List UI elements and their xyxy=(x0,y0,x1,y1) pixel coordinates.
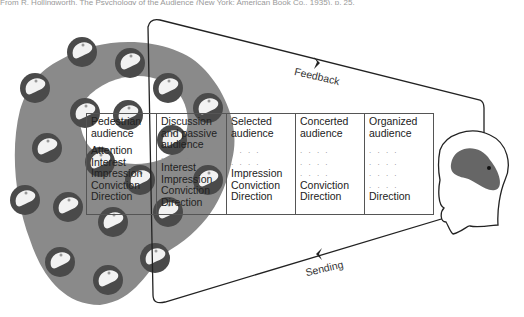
head-icon xyxy=(67,37,97,67)
head-icon xyxy=(20,73,50,103)
column-header: Pedestrian audience xyxy=(91,116,152,139)
speaker-head-icon xyxy=(439,131,509,234)
stage-item-empty: . . . . xyxy=(369,157,429,169)
head-icon xyxy=(53,192,83,222)
head-icon xyxy=(93,265,123,295)
column-selected: Selected audience . . . . . . . . Impres… xyxy=(227,114,296,214)
column-header: Discussion and passive audience xyxy=(161,116,222,151)
audience-communication-diagram: From R. Hollingworth, The Psychology of … xyxy=(0,0,524,317)
column-concerted: Concerted audience . . . . . . . . . . .… xyxy=(296,114,365,214)
column-header: Concerted audience xyxy=(300,116,360,139)
stage-item-empty: . . . . xyxy=(231,145,291,157)
stage-item: Interest xyxy=(161,162,222,174)
stage-item: Direction xyxy=(300,191,360,203)
head-icon xyxy=(10,185,40,215)
stage-item: Direction xyxy=(91,191,152,203)
stage-item-empty: . . . . xyxy=(300,157,360,169)
column-discussion-passive: Discussion and passive audience . . . . … xyxy=(157,114,227,214)
column-header: Organized audience xyxy=(369,116,429,139)
head-icon xyxy=(140,243,170,273)
stage-item: Attention xyxy=(91,145,152,157)
stage-item-empty: . . . . xyxy=(300,168,360,180)
column-organized: Organized audience . . . . . . . . . . .… xyxy=(365,114,433,214)
stage-item: Impression xyxy=(231,168,291,180)
stage-item: Conviction xyxy=(161,185,222,197)
stage-item-empty: . . . . xyxy=(369,168,429,180)
head-icon xyxy=(32,133,62,163)
sending-arrow-icon xyxy=(316,248,322,260)
stage-item-empty: . . . . xyxy=(369,145,429,157)
stage-item: Direction xyxy=(161,197,222,209)
stage-item: Direction xyxy=(369,191,429,203)
column-header: Selected audience xyxy=(231,116,291,139)
head-icon xyxy=(153,73,183,103)
column-pedestrian: Pedestrian audience Attention Interest I… xyxy=(87,114,157,214)
audience-types-table: Pedestrian audience Attention Interest I… xyxy=(86,113,434,215)
stage-item-empty: . . . . xyxy=(300,145,360,157)
stage-item: Direction xyxy=(231,191,291,203)
head-icon xyxy=(115,48,145,78)
head-icon xyxy=(45,247,75,277)
stage-item: Impression xyxy=(91,168,152,180)
